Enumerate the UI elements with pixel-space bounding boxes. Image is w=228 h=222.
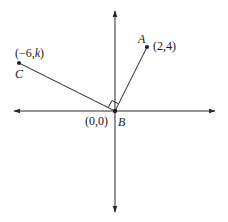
point-b-dot [113,109,117,113]
point-a-label: A [137,32,146,46]
point-c-dot [17,61,21,65]
point-a-dot [145,45,149,49]
point-c-coords: (−6,k) [15,46,44,60]
point-c-coords-suffix: ) [40,46,44,60]
point-a-coords: (2,4) [153,39,176,53]
coordinate-diagram: A (2,4) (−6,k) C (0,0) B [0,0,228,222]
segment-bc [19,63,115,111]
point-c-coords-prefix: (−6, [15,46,35,60]
point-c-label: C [15,67,24,81]
segment-ba [115,47,147,111]
point-b-label: B [118,115,126,129]
point-b-coords: (0,0) [85,114,108,128]
